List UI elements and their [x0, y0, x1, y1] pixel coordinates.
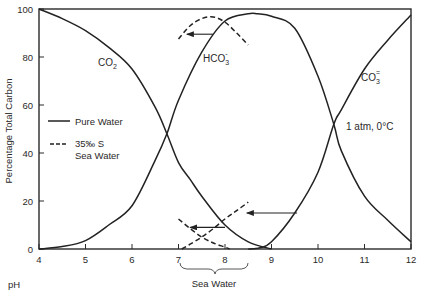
co2-label: CO2: [98, 57, 117, 70]
legend-sea-water-line1: 35‰ S: [75, 138, 104, 149]
x-tick-label: 11: [360, 254, 370, 265]
hco3-35-s-sea-water-curve: [179, 17, 249, 45]
x-tick-label: 9: [269, 254, 274, 265]
x-tick-label: 10: [313, 254, 324, 265]
sea-water-range-label: Sea Water: [192, 278, 237, 289]
y-tick-label: 0: [28, 244, 33, 255]
sea-water-bracket: [180, 263, 248, 274]
co3-label: CO3=: [361, 69, 380, 85]
x-tick-label: 12: [406, 254, 417, 265]
y-tick-label: 60: [22, 100, 33, 111]
legend-pure-water: Pure Water: [75, 116, 123, 127]
hco3-label: HCO3-: [203, 50, 229, 66]
x-tick-label: 4: [36, 254, 41, 265]
legend: Pure Water 35‰ S Sea Water: [48, 116, 123, 161]
conditions-label: 1 atm, 0°C: [346, 121, 393, 132]
co2-pure-water-curve: [39, 9, 272, 249]
co3-35-s-sea-water-curve: [182, 202, 248, 249]
x-tick-label: 6: [129, 254, 134, 265]
x-axis-title: pH: [8, 279, 20, 290]
co3-pure-water-curve: [248, 15, 411, 249]
co2-35-s-sea-water-curve: [179, 219, 230, 249]
y-tick-label: 100: [17, 4, 33, 15]
y-tick-label: 80: [22, 52, 33, 63]
y-tick-label: 40: [22, 148, 33, 159]
x-tick-label: 5: [83, 254, 88, 265]
carbonate-speciation-chart: 456789101112020406080100 Percentage Tota…: [0, 0, 422, 294]
legend-sea-water-line2: Sea Water: [75, 150, 120, 161]
y-tick-label: 20: [22, 196, 33, 207]
y-axis-title: Percentage Total Carbon: [3, 79, 14, 184]
x-tick-label: 8: [222, 254, 227, 265]
